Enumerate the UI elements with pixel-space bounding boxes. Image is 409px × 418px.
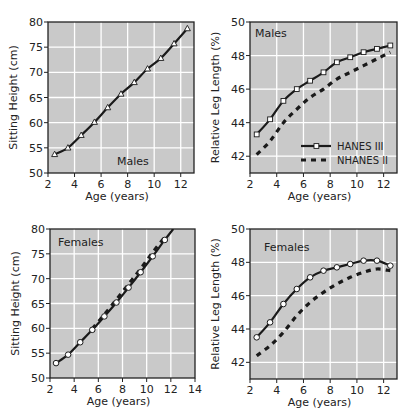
- y-tick-label: 70: [31, 273, 45, 286]
- y-tick-label: 46: [231, 83, 245, 96]
- circle-marker: [374, 258, 380, 264]
- circle-marker: [307, 275, 313, 281]
- y-tick-label: 55: [31, 347, 45, 360]
- x-axis: 24681012Age (years): [45, 173, 188, 203]
- y-axis: 50556065707580Sitting Height (cm): [7, 16, 48, 180]
- y-tick-label: 75: [31, 248, 45, 261]
- figure: 24681012Age (years)50556065707580Sitting…: [0, 0, 409, 418]
- square-marker: [321, 70, 326, 75]
- x-axis-title: Age (years): [85, 190, 149, 203]
- y-tick-label: 44: [231, 117, 245, 130]
- square-marker: [375, 46, 380, 51]
- circle-marker: [150, 254, 156, 260]
- y-tick-label: 44: [231, 323, 245, 336]
- circle-marker: [267, 320, 273, 326]
- square-marker: [361, 50, 366, 55]
- x-tick-label: 4: [71, 178, 78, 191]
- x-tick-label: 2: [47, 383, 54, 396]
- y-tick-label: 50: [31, 372, 45, 385]
- y-tick-label: 65: [29, 92, 43, 105]
- x-tick-label: 10: [350, 384, 364, 397]
- y-tick-label: 50: [29, 167, 43, 180]
- y-axis-title: Relative Leg Length (%): [209, 238, 222, 370]
- square-marker: [294, 87, 299, 92]
- circle-marker: [347, 261, 353, 267]
- square-marker: [388, 43, 393, 48]
- x-tick-label: 4: [71, 383, 78, 396]
- x-tick-label: 10: [350, 178, 364, 191]
- circle-marker: [114, 300, 120, 306]
- y-tick-label: 42: [231, 356, 245, 369]
- x-tick-label: 12: [377, 384, 391, 397]
- y-axis: 4244464850Relative Leg Length (%): [209, 223, 250, 370]
- y-axis-title: Sitting Height (cm): [7, 45, 20, 149]
- circle-marker: [126, 285, 132, 291]
- y-tick-label: 65: [31, 298, 45, 311]
- x-tick-label: 2: [45, 178, 52, 191]
- circle-marker: [77, 339, 83, 345]
- circle-marker: [162, 237, 168, 243]
- circle-marker: [138, 269, 144, 275]
- panel-females-sitting-height: 2468101214Age (years)50556065707580Sitti…: [9, 223, 202, 408]
- legend-square-marker: [314, 144, 319, 149]
- x-tick-label: 2: [247, 178, 254, 191]
- circle-marker: [102, 314, 108, 320]
- x-axis: 24681012Age (years): [247, 379, 391, 409]
- panel-label: Females: [264, 241, 310, 254]
- x-tick-label: 4: [273, 178, 280, 191]
- panel-females-relative-leg-length: 24681012Age (years)4244464850Relative Le…: [209, 223, 397, 409]
- x-axis-title: Age (years): [87, 395, 151, 408]
- circle-marker: [254, 335, 260, 341]
- circle-marker: [89, 327, 95, 333]
- x-axis: 2468101214Age (years): [47, 378, 203, 408]
- circle-marker: [53, 360, 59, 366]
- x-tick-label: 4: [273, 384, 280, 397]
- square-marker: [268, 117, 273, 122]
- y-tick-label: 48: [231, 50, 245, 63]
- y-axis: 4244464850Relative Leg Length (%): [209, 16, 250, 163]
- square-marker: [348, 55, 353, 60]
- legend-label-nhanes-ii: NHANES II: [337, 155, 388, 166]
- legend-label-hanes-iii: HANES III: [337, 141, 384, 152]
- x-tick-label: 10: [147, 178, 161, 191]
- circle-marker: [361, 258, 367, 264]
- square-marker: [281, 98, 286, 103]
- x-tick-label: 2: [247, 384, 254, 397]
- panel-label: Males: [255, 27, 287, 40]
- y-axis-title: Relative Leg Length (%): [209, 32, 222, 164]
- square-marker: [308, 78, 313, 83]
- square-marker: [334, 60, 339, 65]
- circle-marker: [281, 301, 287, 307]
- y-tick-label: 48: [231, 256, 245, 269]
- panel-males-sitting-height: 24681012Age (years)50556065707580Sitting…: [7, 16, 194, 203]
- panel-label: Females: [58, 236, 104, 249]
- y-tick-label: 50: [231, 223, 245, 236]
- y-tick-label: 80: [29, 16, 43, 29]
- x-tick-label: 14: [188, 383, 202, 396]
- y-tick-label: 46: [231, 290, 245, 303]
- y-tick-label: 60: [31, 322, 45, 335]
- y-tick-label: 70: [29, 66, 43, 79]
- y-tick-label: 60: [29, 117, 43, 130]
- y-tick-label: 75: [29, 41, 43, 54]
- circle-marker: [334, 265, 340, 271]
- circle-marker: [65, 352, 71, 358]
- y-tick-label: 80: [31, 223, 45, 236]
- x-tick-label: 12: [377, 178, 391, 191]
- x-tick-label: 12: [164, 383, 178, 396]
- x-axis-title: Age (years): [288, 396, 352, 409]
- y-axis: 50556065707580Sitting Height (cm): [9, 223, 50, 385]
- x-axis-title: Age (years): [288, 190, 352, 203]
- y-axis-title: Sitting Height (cm): [9, 251, 22, 355]
- circle-marker: [388, 263, 394, 269]
- y-tick-label: 50: [231, 16, 245, 29]
- y-tick-label: 42: [231, 150, 245, 163]
- square-marker: [254, 132, 259, 137]
- x-axis: 24681012Age (years): [247, 173, 391, 203]
- x-tick-label: 12: [174, 178, 188, 191]
- circle-marker: [321, 268, 327, 274]
- y-tick-label: 55: [29, 142, 43, 155]
- circle-marker: [294, 286, 300, 292]
- panel-label: Males: [117, 155, 149, 168]
- panel-males-relative-leg-length: 24681012Age (years)4244464850Relative Le…: [209, 16, 397, 203]
